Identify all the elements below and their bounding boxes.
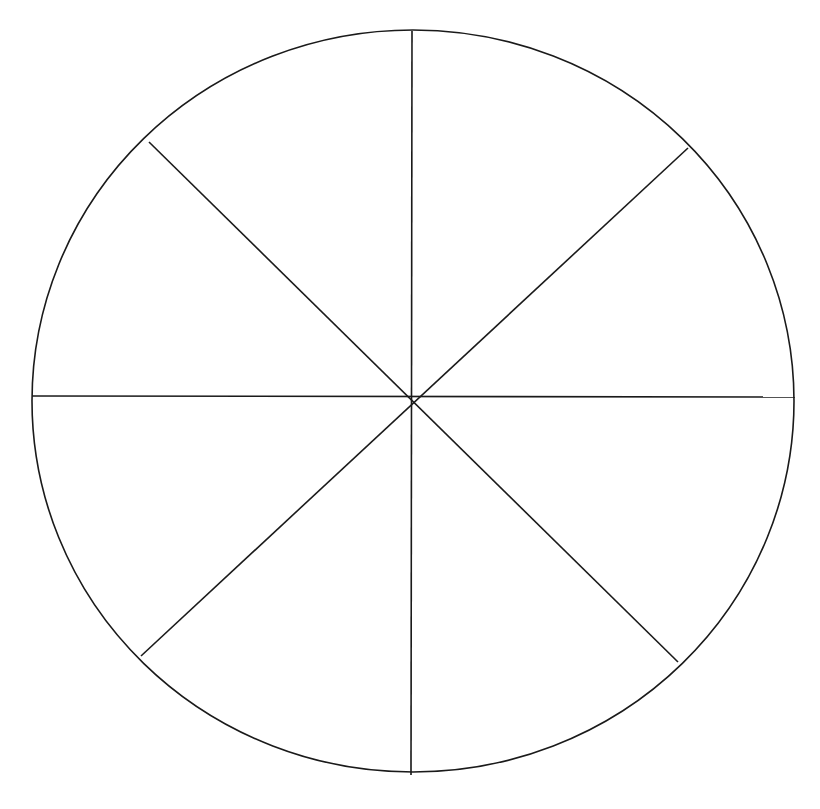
vertical-diameter[interactable] bbox=[411, 31, 412, 775]
fraction-circle-diagram bbox=[0, 0, 820, 809]
figure-canvas bbox=[0, 0, 820, 809]
horizontal-diameter[interactable] bbox=[32, 396, 795, 397]
